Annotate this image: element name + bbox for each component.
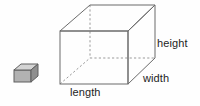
label-width: width [143, 73, 169, 84]
small-unit-cube [14, 64, 38, 82]
unit-cube-front-face [14, 70, 31, 82]
label-length: length [70, 87, 101, 98]
label-height: height [157, 38, 188, 49]
